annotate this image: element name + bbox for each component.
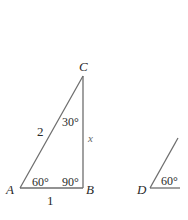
triangle-diagram: C A B 2 1 x 30° 60° 90° D 60° (0, 0, 188, 220)
triangle-d-partial: D 60° (136, 138, 180, 197)
edge-ac (20, 76, 83, 188)
angle-label-c: 30° (62, 115, 79, 129)
triangle-abc: C A B 2 1 x 30° 60° 90° (5, 59, 94, 208)
vertex-label-a: A (5, 182, 14, 197)
vertex-label-c: C (79, 59, 88, 74)
side-label-bc: x (87, 132, 93, 144)
side-label-ac: 2 (37, 124, 44, 139)
angle-label-a: 60° (32, 175, 49, 189)
side-label-ab: 1 (47, 193, 54, 208)
vertex-label-d: D (136, 182, 147, 197)
angle-label-b: 90° (62, 175, 79, 189)
vertex-label-b: B (86, 182, 94, 197)
angle-label-d: 60° (161, 174, 178, 188)
